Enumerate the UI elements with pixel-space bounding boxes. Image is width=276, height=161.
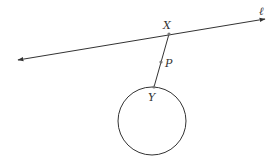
diagram-svg: ℓ X P Y	[0, 0, 276, 161]
label-y: Y	[148, 91, 157, 104]
line-l	[18, 19, 265, 60]
label-p: P	[164, 57, 173, 70]
point-p	[159, 60, 162, 63]
geometry-diagram: ℓ X P Y	[0, 0, 276, 161]
label-l: ℓ	[259, 5, 264, 18]
label-x: X	[162, 19, 172, 32]
point-y	[152, 85, 155, 88]
point-x	[167, 32, 170, 35]
